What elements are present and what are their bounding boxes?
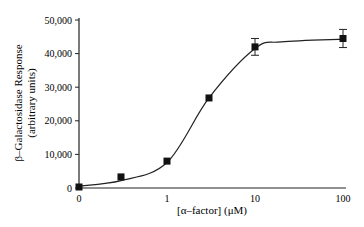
data-point (117, 173, 124, 180)
y-tick-label: 20,000 (45, 115, 73, 126)
y-axis-label: β–Galactosidase Response (12, 44, 24, 161)
fit-curve (79, 39, 343, 186)
data-point (252, 43, 259, 50)
x-tick-label: 100 (336, 193, 351, 204)
data-points (76, 29, 348, 190)
y-tick-label: 40,000 (45, 48, 73, 59)
y-tick-label: 50,000 (45, 15, 73, 26)
y-tick-label: 30,000 (45, 82, 73, 93)
x-ticks: 0110100 (77, 193, 351, 204)
data-point (76, 183, 83, 190)
y-axis-sublabel: (arbitrary units) (25, 68, 38, 138)
x-tick-label: 0 (77, 193, 82, 204)
data-point (340, 35, 347, 42)
data-point (205, 94, 212, 101)
y-tick-label: 10,000 (45, 149, 73, 160)
x-tick-label: 1 (165, 193, 170, 204)
x-tick-label: 10 (250, 193, 260, 204)
chart: 010,00020,00030,00040,00050,000 0110100 … (0, 0, 364, 227)
y-ticks: 010,00020,00030,00040,00050,000 (45, 15, 80, 194)
x-axis-label: [α–factor] (μM) (177, 204, 247, 217)
data-point (164, 158, 171, 165)
y-tick-label: 0 (67, 183, 72, 194)
